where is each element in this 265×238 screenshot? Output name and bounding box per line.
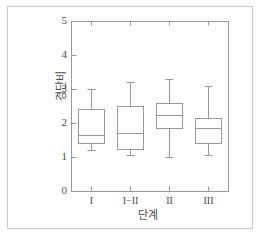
x-tick-label: I−II: [111, 195, 151, 206]
box-plot-item: [79, 90, 105, 151]
y-tick-label: 0: [49, 184, 67, 196]
y-tick-label: 2: [49, 116, 67, 128]
plot-frame: [72, 22, 229, 192]
x-tick-label: I: [72, 195, 112, 206]
y-axis-ticks: [72, 22, 77, 192]
box-plot-item: [196, 87, 222, 156]
x-axis-ticks: [92, 22, 209, 192]
x-tick-label: III: [189, 195, 229, 206]
box-plot-item: [118, 83, 144, 156]
x-tick-label: II: [150, 195, 190, 206]
y-axis-title: 경단비: [52, 56, 68, 116]
y-tick-label: 5: [49, 14, 67, 26]
figure-container: 012345 II−IIIIIII 경단비 단계: [0, 0, 265, 238]
box-plot-item: [157, 80, 183, 158]
box-series: [79, 80, 222, 158]
y-tick-label: 1: [49, 150, 67, 162]
x-axis-title: 단계: [68, 206, 228, 222]
